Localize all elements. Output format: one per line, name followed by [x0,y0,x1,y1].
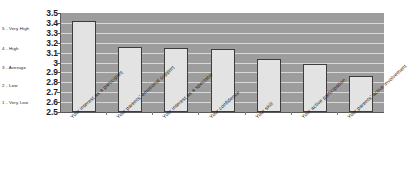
gridline [61,23,384,24]
y-axis-tick-mark [57,92,60,93]
y-axis-tick-mark [57,13,60,14]
gridline [61,33,384,34]
y-axis-tick-mark [57,72,60,73]
y-axis-tick-mark [57,102,60,103]
x-axis-tick-mark [245,112,246,115]
y-axis-tick-mark [57,43,60,44]
chart-title [90,0,320,2]
y-axis-tick-mark [57,33,60,34]
y-axis-tick-mark [57,112,60,113]
x-axis-tick-mark [198,112,199,115]
y-axis-tick-mark [57,63,60,64]
x-axis-tick-mark [337,112,338,115]
gridline [61,43,384,44]
x-axis-tick-mark [152,112,153,115]
x-axis-tick-mark [106,112,107,115]
y-axis-tick-mark [57,23,60,24]
x-axis-category-labels: Your interest as a participantYour paren… [0,113,395,186]
y-axis-tick-mark [57,53,60,54]
plot-area [60,13,384,113]
y-axis-tick-mark [57,82,60,83]
x-axis-tick-mark [291,112,292,115]
